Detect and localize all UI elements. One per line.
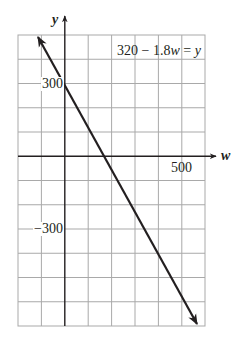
- x-tick-500: 500: [171, 161, 192, 175]
- y-tick-neg300: −300: [33, 222, 64, 236]
- equation-label: 320 − 1.8w = y: [117, 44, 201, 58]
- x-axis-label: w: [221, 149, 230, 163]
- y-axis-label: y: [52, 13, 58, 27]
- y-tick-300: 300: [41, 77, 64, 91]
